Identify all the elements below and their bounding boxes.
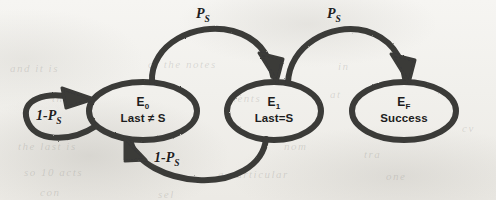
state-label-ef-symbol: EF <box>352 95 456 112</box>
transition-arc-e0-to-e1[interactable] <box>152 29 273 82</box>
transition-label-e0-to-e1: PS <box>196 6 210 24</box>
state-label-e0-symbol: E0 <box>89 95 197 112</box>
state-diagram-canvas: and it isof the notestointhementsatcvthe… <box>0 0 496 200</box>
transition-label-self-loop-e0: 1-PS <box>36 108 62 126</box>
state-label-e1-condition: Last=S <box>227 112 321 126</box>
transition-arc-e1-to-e0[interactable] <box>131 139 266 180</box>
state-label-ef: EF Success <box>352 95 456 125</box>
state-label-e1: E1 Last=S <box>227 95 321 125</box>
state-label-ef-condition: Success <box>352 112 456 126</box>
transition-arc-e1-to-ef[interactable] <box>288 29 405 83</box>
transition-label-e1-to-e0: 1-PS <box>154 150 180 168</box>
state-label-e0: E0 Last ≠ S <box>89 95 197 125</box>
state-label-e0-condition: Last ≠ S <box>89 112 197 126</box>
transition-label-e1-to-ef: PS <box>327 6 341 24</box>
state-label-e1-symbol: E1 <box>227 95 321 112</box>
